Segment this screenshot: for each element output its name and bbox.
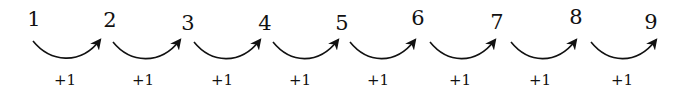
number-1: 1 xyxy=(27,9,40,30)
number-sequence-diagram: 1 2 3 4 5 6 7 8 9 +1 +1 +1 +1 +1 +1 +1 +… xyxy=(0,0,689,96)
arrow-1-to-2 xyxy=(33,40,100,58)
step-label-3: +1 xyxy=(211,73,233,88)
arrow-5-to-6 xyxy=(350,40,415,59)
arrow-4-to-5 xyxy=(273,40,338,59)
step-label-2: +1 xyxy=(132,73,154,88)
step-label-7: +1 xyxy=(529,73,551,88)
number-7: 7 xyxy=(490,12,503,33)
step-label-4: +1 xyxy=(289,73,311,88)
number-3: 3 xyxy=(181,13,194,34)
arrow-8-to-9 xyxy=(591,40,656,59)
number-5: 5 xyxy=(335,13,348,34)
step-label-5: +1 xyxy=(367,73,389,88)
arrow-7-to-8 xyxy=(511,40,576,59)
arrow-2-to-3 xyxy=(113,40,180,59)
arrow-6-to-7 xyxy=(430,40,495,59)
number-8: 8 xyxy=(569,7,582,28)
number-6: 6 xyxy=(411,8,424,29)
arrow-3-to-4 xyxy=(194,40,260,59)
number-2: 2 xyxy=(103,10,116,31)
number-4: 4 xyxy=(258,13,271,34)
step-label-6: +1 xyxy=(449,73,471,88)
step-label-8: +1 xyxy=(611,73,633,88)
step-label-1: +1 xyxy=(54,73,76,88)
number-9: 9 xyxy=(644,12,657,33)
